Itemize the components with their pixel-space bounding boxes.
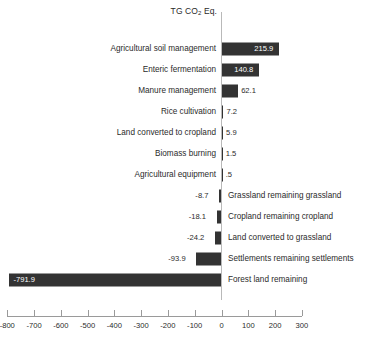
bar (217, 210, 222, 223)
x-tick-label: 0 (219, 322, 223, 330)
bar (219, 189, 221, 202)
category-label: Grassland remaining grassland (228, 191, 341, 199)
x-tick-label: 200 (269, 322, 282, 330)
bar (222, 147, 223, 160)
category-label: Settlements remaining settlements (228, 254, 354, 262)
value-label: -18.1 (189, 213, 206, 221)
category-label: Biomass burning (155, 149, 216, 157)
value-label: 5.9 (226, 129, 237, 137)
category-label: Manure management (138, 86, 216, 94)
category-label: Cropland remaining cropland (228, 212, 333, 220)
bar-row: Agricultural equipment.5 (0, 164, 372, 185)
bar-row: Land converted to grassland-24.2 (0, 227, 372, 248)
bar-row: Enteric fermentation140.8 (0, 59, 372, 80)
value-label: 1.5 (226, 150, 237, 158)
value-label: .5 (226, 171, 232, 179)
value-label: 62.1 (241, 87, 256, 95)
bar-row: Manure management62.1 (0, 80, 372, 101)
bar (222, 84, 239, 97)
bar (222, 126, 224, 139)
x-tick-label: -700 (26, 322, 41, 330)
x-tick-label: -600 (53, 322, 68, 330)
bar-row: Rice cultivation7.2 (0, 101, 372, 122)
bar-row: Biomass burning1.5 (0, 143, 372, 164)
emissions-bar-chart: TG CO2 Eq. Agricultural soil management2… (0, 0, 372, 337)
x-tick (302, 310, 303, 316)
value-label: -24.2 (187, 234, 204, 242)
x-tick-label: -500 (80, 322, 95, 330)
x-tick (248, 310, 249, 316)
x-axis-line (7, 316, 302, 317)
x-tick (34, 310, 35, 316)
value-label: 140.8 (234, 66, 253, 74)
bar-rows: Agricultural soil management215.9Enteric… (0, 0, 372, 300)
x-tick (88, 310, 89, 316)
category-label: Rice cultivation (161, 107, 216, 115)
category-label: Enteric fermentation (143, 65, 216, 73)
bar-row: Grassland remaining grassland-8.7 (0, 185, 372, 206)
x-tick (141, 310, 142, 316)
value-label: -8.7 (195, 192, 208, 200)
category-label: Forest land remaining (228, 275, 307, 283)
bar-row: Agricultural soil management215.9 (0, 38, 372, 59)
category-label: Land converted to grassland (228, 233, 331, 241)
value-label: -93.9 (168, 255, 185, 263)
x-tick-label: -100 (187, 322, 202, 330)
x-tick (114, 310, 115, 316)
x-tick (61, 310, 62, 316)
category-label: Land converted to cropland (117, 128, 216, 136)
category-label: Agricultural soil management (110, 44, 216, 52)
x-tick (168, 310, 169, 316)
x-tick-label: -400 (107, 322, 122, 330)
x-tick-label: -800 (0, 322, 15, 330)
x-tick-label: -200 (160, 322, 175, 330)
bar (215, 231, 221, 244)
bar-row: Settlements remaining settlements-93.9 (0, 248, 372, 269)
x-tick (222, 310, 223, 316)
value-label: -791.9 (13, 276, 35, 284)
x-tick-label: -300 (134, 322, 149, 330)
bar (9, 273, 221, 286)
bar (222, 168, 223, 181)
value-label: 7.2 (226, 108, 237, 116)
bar-row: Land converted to cropland5.9 (0, 122, 372, 143)
value-label: 215.9 (254, 45, 273, 53)
x-tick (7, 310, 8, 316)
bar-row: Forest land remaining-791.9 (0, 269, 372, 290)
x-tick-label: 300 (295, 322, 308, 330)
x-tick (275, 310, 276, 316)
x-axis: -800-700-600-500-400-300-200-10001002003… (0, 300, 372, 337)
x-tick-label: 100 (242, 322, 255, 330)
category-label: Agricultural equipment (135, 170, 216, 178)
bar (222, 105, 224, 118)
x-tick (195, 310, 196, 316)
bar-row: Cropland remaining cropland-18.1 (0, 206, 372, 227)
bar (196, 252, 221, 265)
